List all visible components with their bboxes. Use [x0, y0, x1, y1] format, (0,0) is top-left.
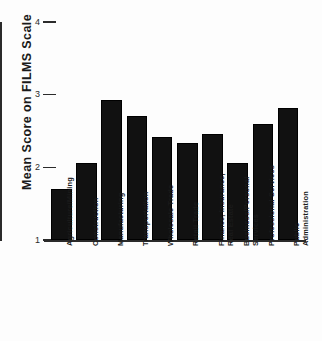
- x-tick-label: Manufacturing: [116, 192, 125, 246]
- x-tick-label: Business/Personal Services: [242, 176, 261, 246]
- x-tick-label: Construction: [91, 198, 100, 246]
- y-tick-label: 3: [26, 90, 40, 99]
- y-tick-mark: [43, 167, 56, 169]
- y-tick-label: 1: [26, 236, 40, 245]
- x-tick-label: Finance, Insurance, Real Estate: [217, 173, 236, 246]
- x-tick-label: Retail Trade: [191, 202, 200, 246]
- y-tick-label: 2: [26, 163, 40, 172]
- x-tick-label: Professional Services: [267, 165, 276, 246]
- x-tick-label: Wholesale Trade: [166, 185, 175, 246]
- x-tick-label: Agriculture/Mining: [65, 177, 74, 246]
- x-tick-label: Public Administration: [292, 191, 311, 246]
- y-tick-label: 4: [26, 18, 40, 27]
- bar-chart: Mean Score on FILMS Scale 1234 Agricultu…: [0, 0, 322, 341]
- y-axis-line: [0, 22, 2, 241]
- y-tick-mark: [43, 94, 56, 96]
- y-tick-mark: [43, 21, 56, 23]
- x-tick-label: Transportation: [141, 191, 150, 246]
